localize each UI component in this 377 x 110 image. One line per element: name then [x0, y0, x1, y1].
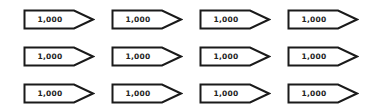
- arrow-tag: 1,000: [111, 46, 182, 67]
- arrow-tag: 1,000: [23, 46, 94, 67]
- arrow-tag: 1,000: [199, 9, 270, 30]
- arrow-tag: 1,000: [199, 46, 270, 67]
- tag-label: 1,000: [289, 83, 339, 104]
- tag-label: 1,000: [113, 46, 163, 67]
- arrow-tag: 1,000: [287, 46, 358, 67]
- tag-label: 1,000: [25, 46, 75, 67]
- arrow-tag: 1,000: [23, 9, 94, 30]
- tag-label: 1,000: [25, 83, 75, 104]
- tag-label: 1,000: [201, 83, 251, 104]
- tag-label: 1,000: [289, 9, 339, 30]
- tag-label: 1,000: [201, 9, 251, 30]
- arrow-tag: 1,000: [111, 83, 182, 104]
- tag-label: 1,000: [289, 46, 339, 67]
- arrow-tag: 1,000: [199, 83, 270, 104]
- tag-label: 1,000: [113, 9, 163, 30]
- tag-label: 1,000: [25, 9, 75, 30]
- arrow-tag: 1,000: [111, 9, 182, 30]
- arrow-tag: 1,000: [287, 83, 358, 104]
- tag-label: 1,000: [201, 46, 251, 67]
- arrow-tag: 1,000: [23, 83, 94, 104]
- tag-label: 1,000: [113, 83, 163, 104]
- arrow-tag: 1,000: [287, 9, 358, 30]
